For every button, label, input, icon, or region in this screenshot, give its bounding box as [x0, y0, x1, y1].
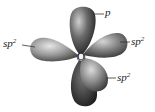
label-sp2-lower: sp2 [117, 72, 130, 83]
label-sp2-lower-base: sp [117, 71, 127, 83]
label-sp2-left-sup: 2 [13, 37, 17, 45]
orbital-diagram: O p sp2 sp2 sp2 [0, 0, 155, 112]
label-sp2-right-base: sp [131, 35, 141, 47]
label-p-text: p [105, 6, 111, 18]
label-sp2-right-sup: 2 [141, 35, 145, 43]
label-p: p [105, 7, 111, 18]
label-sp2-left: sp2 [3, 38, 16, 49]
label-sp2-left-base: sp [3, 37, 13, 49]
label-sp2-lower-sup: 2 [127, 71, 131, 79]
sp2-orbital-left-lobe [30, 38, 79, 62]
atom-symbol: O [77, 51, 85, 62]
label-sp2-right: sp2 [131, 36, 144, 47]
